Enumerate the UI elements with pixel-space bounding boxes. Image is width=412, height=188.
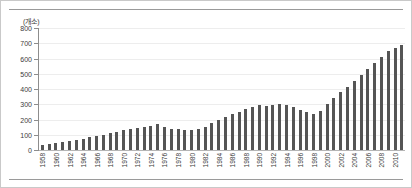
- bar-slot: [188, 28, 195, 150]
- chart-figure: (개소) 0100200300400500600700800 195819601…: [0, 0, 412, 188]
- bar-series: [39, 28, 405, 150]
- bar: [109, 133, 112, 150]
- bar: [95, 136, 98, 150]
- bar: [366, 69, 369, 150]
- bar: [48, 144, 51, 150]
- x-label-slot: 1996: [297, 152, 304, 182]
- bar-slot: [120, 28, 127, 150]
- bar-slot: [263, 28, 270, 150]
- x-label-slot: [141, 152, 148, 182]
- x-label-slot: 1998: [310, 152, 317, 182]
- bar-slot: [222, 28, 229, 150]
- bar-slot: [385, 28, 392, 150]
- x-label-slot: 1990: [256, 152, 263, 182]
- bar-slot: [195, 28, 202, 150]
- bar-slot: [310, 28, 317, 150]
- x-label-slot: 2008: [378, 152, 385, 182]
- bar: [394, 48, 397, 150]
- bar-slot: [202, 28, 209, 150]
- bar-slot: [351, 28, 358, 150]
- bar: [373, 63, 376, 150]
- bar: [265, 106, 268, 150]
- y-axis-tick-label: 600: [2, 55, 32, 62]
- bar: [326, 104, 329, 150]
- bar: [353, 81, 356, 150]
- x-label-slot: [236, 152, 243, 182]
- bar: [387, 51, 390, 150]
- y-axis-tick-label: 500: [2, 70, 32, 77]
- x-label-slot: 2000: [324, 152, 331, 182]
- x-label-slot: 1988: [242, 152, 249, 182]
- bar: [380, 57, 383, 150]
- bar-slot: [229, 28, 236, 150]
- bar-slot: [46, 28, 53, 150]
- bar: [292, 107, 295, 150]
- x-label-slot: 1966: [93, 152, 100, 182]
- bar-slot: [290, 28, 297, 150]
- bar: [82, 139, 85, 150]
- bar: [170, 129, 173, 150]
- y-axis-tick-mark: [34, 74, 38, 75]
- bar-slot: [378, 28, 385, 150]
- gridline: [39, 150, 405, 151]
- x-label-slot: [59, 152, 66, 182]
- bar-slot: [371, 28, 378, 150]
- bar: [177, 129, 180, 150]
- bar: [197, 129, 200, 150]
- x-label-slot: 1984: [215, 152, 222, 182]
- bar-slot: [127, 28, 134, 150]
- x-label-slot: [86, 152, 93, 182]
- x-label-slot: 1980: [188, 152, 195, 182]
- bar-slot: [134, 28, 141, 150]
- x-label-slot: 2004: [351, 152, 358, 182]
- bar-slot: [168, 28, 175, 150]
- bar-slot: [141, 28, 148, 150]
- x-label-slot: [358, 152, 365, 182]
- bar: [210, 123, 213, 150]
- bottom-divider: [9, 179, 403, 180]
- bar-slot: [148, 28, 155, 150]
- bar-slot: [86, 28, 93, 150]
- x-label-slot: [276, 152, 283, 182]
- bar: [251, 107, 254, 150]
- y-axis-tick-label: 100: [2, 131, 32, 138]
- bar-slot: [392, 28, 399, 150]
- bar-slot: [161, 28, 168, 150]
- x-label-slot: 1992: [270, 152, 277, 182]
- x-label-slot: 1994: [283, 152, 290, 182]
- bar-slot: [66, 28, 73, 150]
- bar-slot: [100, 28, 107, 150]
- bar-slot: [39, 28, 46, 150]
- x-label-slot: 1962: [66, 152, 73, 182]
- x-label-slot: [209, 152, 216, 182]
- x-label-slot: 2006: [365, 152, 372, 182]
- bar: [400, 45, 403, 150]
- x-label-slot: 1964: [80, 152, 87, 182]
- y-axis-tick-mark: [34, 135, 38, 136]
- bar-slot: [270, 28, 277, 150]
- bar-slot: [358, 28, 365, 150]
- x-label-slot: 1958: [39, 152, 46, 182]
- x-label-slot: 1976: [161, 152, 168, 182]
- bar: [258, 105, 261, 150]
- bar-slot: [344, 28, 351, 150]
- bar: [360, 75, 363, 150]
- y-axis-tick-label: 800: [2, 25, 32, 32]
- bar-slot: [154, 28, 161, 150]
- x-label-slot: [181, 152, 188, 182]
- x-label-slot: [303, 152, 310, 182]
- bar-slot: [107, 28, 114, 150]
- y-axis-tick-mark: [34, 89, 38, 90]
- bar: [75, 140, 78, 150]
- x-label-slot: 1968: [107, 152, 114, 182]
- bar: [149, 126, 152, 150]
- bar-slot: [114, 28, 121, 150]
- x-label-slot: 1978: [175, 152, 182, 182]
- bar-slot: [324, 28, 331, 150]
- y-axis-tick-label: 300: [2, 101, 32, 108]
- bar: [346, 87, 349, 150]
- bar-slot: [175, 28, 182, 150]
- bar: [61, 142, 64, 150]
- bar: [217, 120, 220, 150]
- bar: [115, 132, 118, 150]
